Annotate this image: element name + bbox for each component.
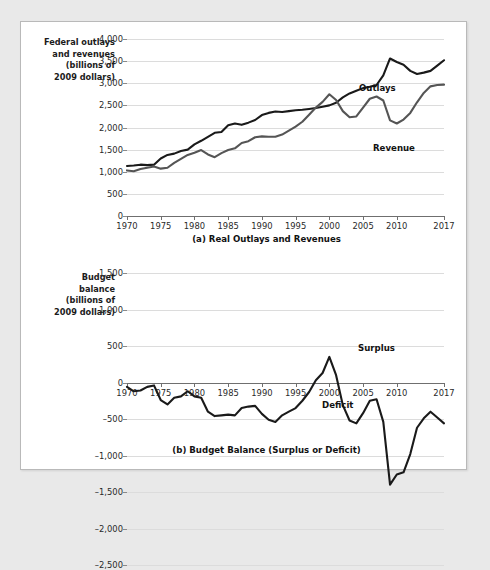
y-tick-label: –500 — [103, 414, 123, 424]
x-tick-mark — [397, 216, 398, 220]
x-tick-label: 1975 — [150, 221, 171, 231]
y-tick-label: 500 — [107, 341, 123, 351]
y-tick-label: 0 — [118, 211, 123, 221]
y-tick-label: 1,000 — [99, 167, 123, 177]
x-tick-mark — [363, 216, 364, 220]
y-tick-label: 3,000 — [99, 78, 123, 88]
series-line-revenue — [127, 85, 444, 172]
x-tick-mark — [194, 216, 195, 220]
series-label-outlays: Outlays — [359, 83, 396, 93]
y-tick-label: 2,500 — [99, 100, 123, 110]
x-tick-mark — [444, 216, 445, 220]
y-tick-label: 0 — [118, 378, 123, 388]
panel-a-caption: (a) Real Outlays and Revenues — [43, 234, 490, 244]
panel-b-plot-area: 1,5001,0005000–500–1,000–1,500–2,000–2,5… — [127, 273, 444, 565]
panel-a-plot-area: 4,0003,5003,0002,5002,0001,5001,00050001… — [127, 39, 444, 216]
panel-b-caption: (b) Budget Balance (Surplus or Deficit) — [43, 445, 490, 455]
x-tick-label: 1980 — [184, 221, 205, 231]
gridline — [127, 565, 444, 566]
series-label-surplus: Surplus — [358, 343, 395, 353]
x-tick-mark — [127, 216, 128, 220]
y-tick-label: –2,500 — [95, 560, 123, 570]
y-tick-label: 2,000 — [99, 123, 123, 133]
series-label-deficit: Deficit — [322, 400, 353, 410]
y-tick-mark — [123, 565, 127, 566]
y-tick-label: 1,500 — [99, 145, 123, 155]
x-tick-label: 2000 — [319, 221, 340, 231]
x-tick-label: 2010 — [386, 221, 407, 231]
y-tick-label: 3,500 — [99, 56, 123, 66]
x-tick-mark — [444, 383, 445, 387]
x-tick-mark — [161, 216, 162, 220]
x-tick-label: 2017 — [433, 221, 454, 231]
x-tick-label: 2005 — [352, 221, 373, 231]
series-label-revenue: Revenue — [373, 143, 415, 153]
series-lines — [127, 273, 444, 565]
x-tick-mark — [329, 216, 330, 220]
x-tick-mark — [262, 216, 263, 220]
series-lines — [127, 39, 444, 216]
y-tick-label: 4,000 — [99, 34, 123, 44]
y-tick-label: –1,500 — [95, 487, 123, 497]
y-tick-label: 500 — [107, 189, 123, 199]
x-tick-mark — [296, 216, 297, 220]
series-line-budget-balance — [127, 357, 444, 485]
panel-real-outlays-and-revenues: Federal outlays and revenues (billions o… — [21, 22, 468, 250]
y-tick-label: 1,500 — [99, 268, 123, 278]
x-tick-label: 1970 — [116, 221, 137, 231]
x-tick-label: 1985 — [217, 221, 238, 231]
x-tick-mark — [228, 216, 229, 220]
figure-card: Federal outlays and revenues (billions o… — [20, 21, 467, 470]
panel-budget-balance: Budget balance (billions of 2009 dollars… — [21, 250, 468, 471]
x-tick-label: 1995 — [285, 221, 306, 231]
x-tick-label: 1990 — [251, 221, 272, 231]
y-tick-label: 1,000 — [99, 305, 123, 315]
y-tick-label: –2,000 — [95, 524, 123, 534]
